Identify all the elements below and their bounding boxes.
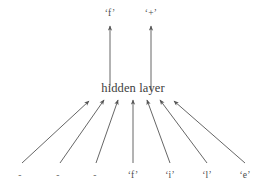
output-label-1: ‘+’ (145, 9, 157, 19)
input-label-4: ‘i’ (165, 171, 175, 181)
input-edge-0 (22, 101, 89, 163)
input-edge-6 (174, 101, 245, 163)
hidden-layer-node: hidden layer (101, 82, 164, 95)
input-label-2: - (93, 171, 96, 181)
output-label-0: ‘f’ (105, 9, 116, 19)
input-label-0: - (18, 171, 21, 181)
neural-network-diagram: hidden layer ‘f’‘+’ ---‘f’‘i’‘l’‘e’ (0, 0, 267, 188)
input-label-1: - (56, 171, 59, 181)
input-label-5: ‘l’ (202, 171, 212, 181)
input-label-6: ‘e’ (239, 171, 250, 181)
input-edge-group (22, 100, 245, 163)
input-edge-2 (96, 100, 118, 163)
input-edge-1 (60, 100, 104, 163)
input-label-3: ‘f’ (128, 171, 139, 181)
